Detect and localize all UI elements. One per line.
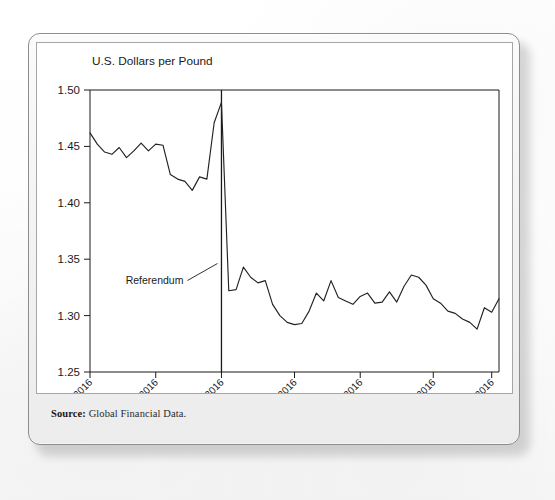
figure-card: U.S. Dollars per Pound1.501.451.401.351.… xyxy=(28,33,520,445)
y-tick-label: 1.40 xyxy=(58,197,80,209)
x-tick-label: 07/06/2016 xyxy=(256,376,299,393)
y-tick-label: 1.30 xyxy=(58,310,80,322)
figure-page: U.S. Dollars per Pound1.501.451.401.351.… xyxy=(0,0,555,500)
plot-frame xyxy=(90,90,499,372)
x-tick-label: 06/23/2016 xyxy=(183,376,226,393)
x-tick-label: 06/10/2016 xyxy=(117,376,160,393)
source-value: Global Financial Data. xyxy=(89,408,187,419)
referendum-annotation-label: Referendum xyxy=(126,274,184,286)
y-tick-label: 1.45 xyxy=(58,140,80,152)
source-note: Source: Global Financial Data. xyxy=(51,408,481,419)
x-tick-label: 07/19/2016 xyxy=(321,376,364,393)
x-tick-label: 08/01/2016 xyxy=(395,376,438,393)
line-chart: U.S. Dollars per Pound1.501.451.401.351.… xyxy=(37,43,512,393)
y-tick-label: 1.25 xyxy=(58,366,80,378)
chart-title: U.S. Dollars per Pound xyxy=(92,54,213,68)
y-tick-label: 1.50 xyxy=(58,84,80,96)
x-axis: 05/30/201606/10/201606/23/201607/06/2016… xyxy=(51,372,496,393)
y-axis: 1.501.451.401.351.301.25 xyxy=(58,84,90,378)
referendum-leader-line xyxy=(187,264,217,281)
source-label: Source: xyxy=(51,408,86,419)
chart-panel: U.S. Dollars per Pound1.501.451.401.351.… xyxy=(36,42,513,394)
x-tick-label: 08/12/2016 xyxy=(453,376,496,393)
data-series-line xyxy=(90,102,499,329)
x-tick-label: 05/30/2016 xyxy=(51,376,94,393)
y-tick-label: 1.35 xyxy=(58,253,80,265)
